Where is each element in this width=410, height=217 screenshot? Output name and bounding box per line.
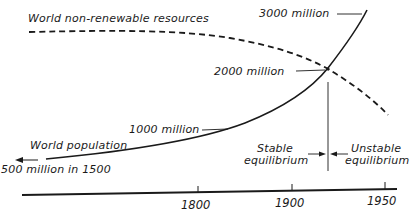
resources-label: World non-renewable resources [28, 13, 209, 25]
stable-arrow-head-icon [319, 152, 326, 157]
stable-equilibrium-label: Stable equilibrium [244, 143, 306, 167]
unstable-line2: equilibrium [345, 155, 407, 167]
crossover-point [326, 67, 329, 70]
value-1000-label: 1000 million [129, 124, 200, 136]
population-label: World population [30, 140, 127, 152]
time-axis [22, 189, 397, 195]
unstable-equilibrium-label: Unstable equilibrium [345, 143, 407, 167]
value-2000-label: 2000 million [214, 66, 285, 78]
population-resources-diagram: World non-renewable resources World popu… [0, 0, 410, 217]
stable-line2: equilibrium [244, 155, 306, 167]
tick-label-1950: 1950 [367, 194, 396, 208]
leader-2000 [296, 70, 325, 71]
resources-curve [29, 31, 388, 115]
unstable-arrow-head-icon [330, 152, 337, 157]
start-value-label: 500 million in 1500 [1, 164, 111, 176]
value-3000-label: 3000 million [259, 8, 330, 20]
tick-label-1900: 1900 [275, 196, 304, 210]
tick-label-1800: 1800 [181, 198, 210, 212]
diagram-graphics [0, 0, 410, 217]
population-curve [46, 10, 367, 159]
